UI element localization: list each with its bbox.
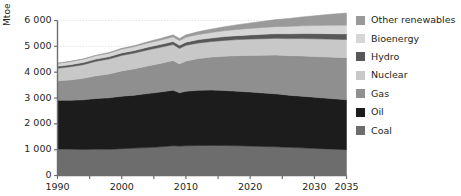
legend-swatch-icon xyxy=(356,126,365,135)
legend-item-hydro[interactable]: Hydro xyxy=(356,48,461,66)
legend-swatch-icon xyxy=(356,89,365,98)
legend-item-other-renewables[interactable]: Other renewables xyxy=(356,11,461,29)
chart-container: Mtoe 01 0002 0003 0004 0005 0006 000 199… xyxy=(0,0,461,196)
legend-item-label: Gas xyxy=(371,89,389,99)
legend-item-gas[interactable]: Gas xyxy=(356,85,461,103)
legend-swatch-icon xyxy=(356,16,365,25)
area-series-oil xyxy=(58,90,347,150)
legend-item-label: Nuclear xyxy=(371,70,408,80)
legend-item-label: Other renewables xyxy=(371,15,455,25)
legend-item-label: Oil xyxy=(371,107,384,117)
legend-swatch-icon xyxy=(356,52,365,61)
legend-swatch-icon xyxy=(356,34,365,43)
legend-item-label: Bioenergy xyxy=(371,34,419,44)
legend-item-nuclear[interactable]: Nuclear xyxy=(356,66,461,84)
legend-item-oil[interactable]: Oil xyxy=(356,103,461,121)
chart-legend: Other renewablesBioenergyHydroNuclearGas… xyxy=(356,11,461,140)
legend-item-label: Coal xyxy=(371,126,392,136)
legend-swatch-icon xyxy=(356,108,365,117)
legend-item-coal[interactable]: Coal xyxy=(356,121,461,139)
area-series-coal xyxy=(58,145,347,175)
legend-swatch-icon xyxy=(356,71,365,80)
legend-item-label: Hydro xyxy=(371,52,399,62)
legend-item-bioenergy[interactable]: Bioenergy xyxy=(356,29,461,47)
